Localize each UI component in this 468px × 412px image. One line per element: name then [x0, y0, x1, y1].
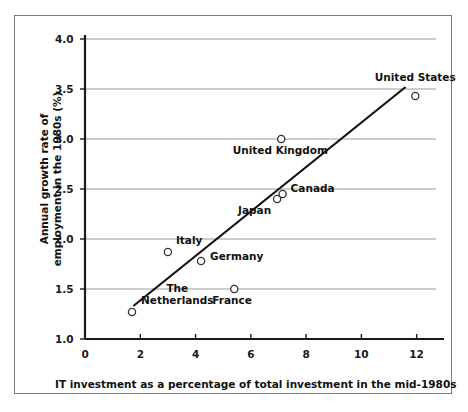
data-point-germany[interactable] — [197, 257, 204, 264]
point-label-japan: Japan — [238, 204, 271, 216]
data-point-united-kingdom[interactable] — [278, 135, 285, 142]
x-tick-label-6: 6 — [247, 348, 254, 360]
data-point-the-netherlands[interactable] — [128, 308, 135, 315]
point-label-united-states: United States — [375, 71, 456, 83]
x-tick-label-4: 4 — [192, 348, 199, 360]
x-axis-title: IT investment as a percentage of total i… — [55, 378, 455, 390]
y-tick-label-1.0: 1.0 — [55, 333, 74, 345]
data-point-canada[interactable] — [279, 190, 286, 197]
y-tick-label-1.5: 1.5 — [55, 283, 74, 295]
point-label-canada: Canada — [291, 182, 335, 194]
y-tick-label-4.0: 4.0 — [55, 33, 74, 45]
chart-figure: 1.01.52.02.53.03.54.0 024681012 TheNethe… — [0, 0, 468, 412]
y-axis-title: Annual growth rate of employment in the … — [38, 79, 64, 279]
point-label-the-netherlands: TheNetherlands — [141, 282, 214, 306]
x-tick-label-10: 10 — [354, 348, 369, 360]
point-label-france: France — [212, 294, 252, 306]
x-tick-label-12: 12 — [409, 348, 424, 360]
data-point-france[interactable] — [231, 285, 238, 292]
point-label-italy: Italy — [176, 234, 202, 246]
point-label-united-kingdom: United Kingdom — [233, 144, 328, 156]
regression-line — [133, 87, 405, 306]
x-tick-label-8: 8 — [303, 348, 310, 360]
chart-frame: 1.01.52.02.53.03.54.0 024681012 TheNethe… — [14, 15, 452, 394]
x-tick-label-0: 0 — [82, 348, 89, 360]
data-point-united-states[interactable] — [412, 92, 419, 99]
point-label-germany: Germany — [210, 250, 263, 262]
data-point-italy[interactable] — [164, 248, 171, 255]
x-tick-label-2: 2 — [137, 348, 144, 360]
trendline — [133, 87, 405, 306]
